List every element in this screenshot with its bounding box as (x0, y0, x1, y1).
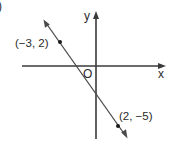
y-axis-arrow-icon (93, 11, 99, 19)
point-marker-neg3-2 (58, 40, 62, 44)
origin-label: O (83, 67, 92, 81)
x-axis-label: x (158, 67, 164, 81)
x-axis (22, 63, 166, 69)
y-axis-label: y (84, 9, 90, 23)
y-axis (93, 11, 99, 139)
graph-line (44, 20, 128, 139)
point-label-neg3-2: (−3, 2) (15, 37, 49, 49)
coordinate-plane-figure: ) y x O (−3, 2) (2, −5) (0, 0, 170, 145)
point-label-2-neg5: (2, −5) (119, 110, 153, 122)
point-marker-2-neg5 (116, 124, 120, 128)
subfigure-label-fragment: ) (0, 0, 2, 13)
